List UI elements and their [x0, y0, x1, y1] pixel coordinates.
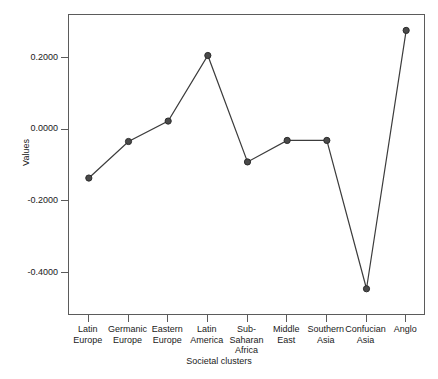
- data-point-marker: [205, 52, 211, 58]
- y-axis-title: Values: [22, 123, 31, 183]
- x-tick-mark: [88, 315, 89, 322]
- data-point-marker: [86, 175, 92, 181]
- x-tick-mark: [405, 315, 406, 322]
- line-chart-figure: 0.20000.0000-0.2000-0.4000 Values Latin …: [0, 0, 438, 379]
- plot-area: [68, 14, 425, 315]
- x-tick-mark: [366, 315, 367, 322]
- x-axis-title: Societal clusters: [0, 357, 438, 366]
- x-tick-mark: [286, 315, 287, 322]
- y-tick-label: -0.2000: [27, 196, 58, 205]
- y-tick-label: -0.4000: [27, 268, 58, 277]
- y-tick-label: 0.2000: [30, 53, 58, 62]
- y-axis-tick-labels: 0.20000.0000-0.2000-0.4000: [0, 0, 58, 379]
- data-point-marker: [165, 118, 171, 124]
- x-tick-mark: [326, 315, 327, 322]
- y-tick-label: 0.0000: [30, 124, 58, 133]
- data-point-marker: [284, 137, 290, 143]
- series-line-and-markers: [69, 15, 424, 314]
- x-tick-mark: [167, 315, 168, 322]
- x-tick-mark: [207, 315, 208, 322]
- y-tick-mark: [61, 272, 68, 273]
- data-point-marker: [324, 137, 330, 143]
- y-tick-mark: [61, 57, 68, 58]
- x-tick-label: Anglo: [377, 324, 433, 335]
- y-tick-mark: [61, 200, 68, 201]
- data-point-marker: [363, 286, 369, 292]
- x-tick-mark: [247, 315, 248, 322]
- data-point-marker: [125, 138, 131, 144]
- data-point-marker: [403, 27, 409, 33]
- x-tick-mark: [128, 315, 129, 322]
- data-point-marker: [244, 159, 250, 165]
- y-tick-mark: [61, 129, 68, 130]
